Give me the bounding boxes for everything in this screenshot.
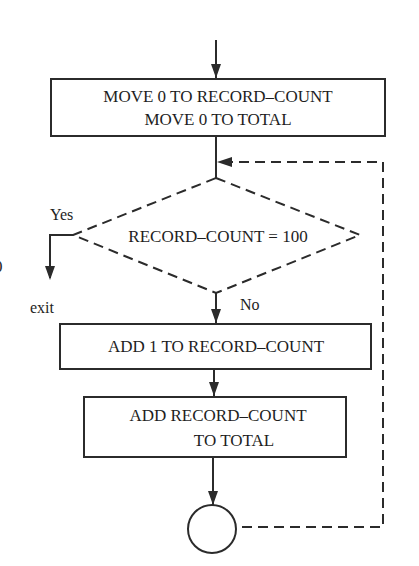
flowchart: MOVE 0 TO RECORD–COUNT MOVE 0 TO TOTAL R… (0, 0, 419, 566)
decision-label: RECORD–COUNT = 100 (128, 227, 307, 246)
yes-branch: Yes exit (30, 206, 73, 316)
accumulate-process-box: ADD RECORD–COUNT TO TOTAL (84, 397, 346, 457)
init-line-1: MOVE 0 TO RECORD–COUNT (103, 87, 333, 106)
loop-arrowhead-icon (217, 157, 232, 167)
init-process-box: MOVE 0 TO RECORD–COUNT MOVE 0 TO TOTAL (51, 79, 385, 136)
decision-diamond: RECORD–COUNT = 100 (73, 178, 360, 293)
no-branch: No (211, 293, 260, 323)
entry-arrow (211, 40, 221, 78)
no-label: No (240, 296, 260, 313)
increment-process-box: ADD 1 TO RECORD–COUNT (60, 324, 371, 369)
accumulate-line-2: TO TOTAL (194, 431, 274, 450)
connector-circle (188, 505, 236, 553)
margin-fragment: 0 (0, 257, 3, 276)
increment-label: ADD 1 TO RECORD–COUNT (108, 337, 325, 356)
init-line-2: MOVE 0 TO TOTAL (144, 110, 291, 129)
accumulate-line-1: ADD RECORD–COUNT (129, 406, 307, 425)
exit-label: exit (30, 299, 55, 316)
accumulate-to-connector-arrow (208, 457, 218, 505)
increment-to-accumulate-arrow (209, 369, 219, 396)
yes-label: Yes (50, 206, 73, 223)
